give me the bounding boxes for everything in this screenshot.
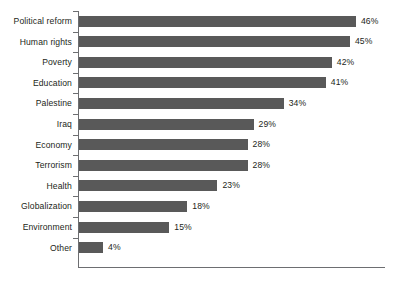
bar-value-label: 34%	[289, 98, 307, 109]
category-label: Education	[0, 73, 72, 94]
bar-row: Human rights45%	[0, 32, 400, 53]
y-axis-tick	[73, 217, 78, 218]
category-label: Other	[0, 238, 72, 259]
bar-value-label: 45%	[355, 36, 373, 47]
bar-value-label: 18%	[192, 201, 210, 212]
bar	[79, 180, 217, 191]
y-axis-tick	[73, 238, 78, 239]
category-label: Health	[0, 176, 72, 197]
bar-row: Economy28%	[0, 135, 400, 156]
category-label: Iraq	[0, 114, 72, 135]
bar-row: Palestine34%	[0, 93, 400, 114]
bar	[79, 98, 284, 109]
category-label: Economy	[0, 135, 72, 156]
bar	[79, 36, 350, 47]
bar-value-label: 4%	[108, 242, 121, 253]
category-label: Palestine	[0, 93, 72, 114]
x-axis-line	[78, 267, 385, 268]
y-axis-tick	[73, 135, 78, 136]
bar-row: Education41%	[0, 73, 400, 94]
category-label: Political reform	[0, 11, 72, 32]
y-axis-tick	[73, 176, 78, 177]
bar-chart: Political reform46%Human rights45%Povert…	[0, 0, 400, 291]
bar-row: Political reform46%	[0, 11, 400, 32]
bar-value-label: 46%	[361, 16, 379, 27]
bar	[79, 57, 332, 68]
y-axis-tick	[73, 93, 78, 94]
bar-value-label: 28%	[253, 160, 271, 171]
bar-value-label: 28%	[253, 139, 271, 150]
category-label: Terrorism	[0, 155, 72, 176]
y-axis-tick	[73, 52, 78, 53]
bar-row: Other4%	[0, 238, 400, 259]
bar-value-label: 41%	[331, 77, 349, 88]
bar	[79, 201, 187, 212]
bar-value-label: 42%	[337, 57, 355, 68]
category-label: Environment	[0, 217, 72, 238]
bar	[79, 119, 254, 130]
bar	[79, 16, 356, 27]
y-axis-tick	[73, 11, 78, 12]
bar	[79, 77, 326, 88]
y-axis-tick	[73, 196, 78, 197]
bar	[79, 242, 103, 253]
bar-value-label: 23%	[222, 180, 240, 191]
y-axis-tick	[73, 155, 78, 156]
bar-row: Health23%	[0, 176, 400, 197]
bar-value-label: 29%	[259, 119, 277, 130]
bar-row: Terrorism28%	[0, 155, 400, 176]
bar-row: Globalization18%	[0, 196, 400, 217]
y-axis-tick	[73, 32, 78, 33]
bar-row: Iraq29%	[0, 114, 400, 135]
bar-rows: Political reform46%Human rights45%Povert…	[0, 11, 400, 258]
bar	[79, 160, 248, 171]
bar	[79, 222, 169, 233]
bar	[79, 139, 248, 150]
bar-row: Environment15%	[0, 217, 400, 238]
bar-row: Poverty42%	[0, 52, 400, 73]
category-label: Poverty	[0, 52, 72, 73]
bar-value-label: 15%	[174, 222, 192, 233]
category-label: Globalization	[0, 196, 72, 217]
category-label: Human rights	[0, 32, 72, 53]
y-axis-tick	[73, 73, 78, 74]
y-axis-tick	[73, 114, 78, 115]
